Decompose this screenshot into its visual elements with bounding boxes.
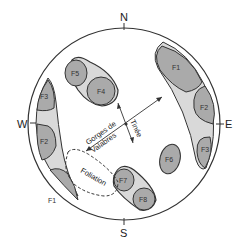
northeast-f3-label: F3 <box>201 146 209 153</box>
west-label: W <box>17 118 28 130</box>
f6-label: F6 <box>165 156 173 163</box>
west-f2-label: F2 <box>40 138 48 145</box>
stereonet-diagram: N S E W F1 F2 F3 F3 F2 F1 F5 F4 F6 F7 F8… <box>0 0 242 245</box>
f4-label: F4 <box>97 88 105 95</box>
f7-label: F7 <box>119 177 127 184</box>
arrow-intersection-dot <box>124 122 127 125</box>
f8-label: F8 <box>139 196 147 203</box>
north-label: N <box>120 11 128 23</box>
f5-label: F5 <box>71 70 79 77</box>
west-f1-label: F1 <box>48 197 56 204</box>
northeast-f1-label: F1 <box>172 64 180 71</box>
south-label: S <box>120 227 127 239</box>
east-label: E <box>225 118 232 130</box>
northeast-f2-label: F2 <box>200 104 208 111</box>
west-f3-label: F3 <box>40 93 48 100</box>
